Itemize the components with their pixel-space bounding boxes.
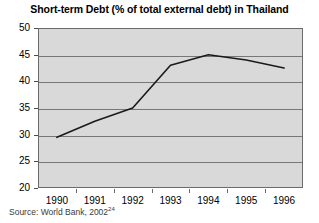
x-tick-mark-1 — [76, 189, 77, 193]
x-tick-label-1991: 1991 — [84, 195, 106, 206]
y-tick-label-30: 30 — [19, 130, 30, 140]
x-tick-label-1994: 1994 — [197, 195, 219, 206]
x-tick-mark-6 — [265, 189, 266, 193]
y-tick-label-35: 35 — [19, 103, 30, 113]
gridline-25 — [39, 162, 302, 163]
x-tick-mark-5 — [227, 189, 228, 193]
x-tick-mark-3 — [152, 189, 153, 193]
x-axis: 1990199119921993199419951996 — [38, 189, 303, 209]
gridline-35 — [39, 109, 302, 110]
gridlines — [39, 29, 302, 187]
y-tick-label-20: 20 — [19, 183, 30, 193]
y-tick-label-40: 40 — [19, 76, 30, 86]
gridline-40 — [39, 82, 302, 83]
y-axis: 20253035404550 — [0, 28, 38, 188]
y-tick-label-50: 50 — [19, 23, 30, 33]
x-tick-label-1992: 1992 — [122, 195, 144, 206]
chart-figure: Short-term Debt (% of total external deb… — [0, 0, 319, 223]
x-tick-label-1990: 1990 — [46, 195, 68, 206]
x-tick-label-1996: 1996 — [273, 195, 295, 206]
chart-title: Short-term Debt (% of total external deb… — [0, 3, 319, 16]
gridline-30 — [39, 136, 302, 137]
source-text: Source: World Bank, 2002 — [9, 207, 108, 217]
x-tick-label-1995: 1995 — [235, 195, 257, 206]
source-footnote-marker: 24 — [108, 206, 115, 212]
gridline-45 — [39, 56, 302, 57]
plot-area — [38, 28, 303, 188]
y-tick-label-25: 25 — [19, 156, 30, 166]
source-note: Source: World Bank, 200224 — [9, 207, 115, 218]
x-tick-mark-4 — [189, 189, 190, 193]
x-tick-mark-2 — [114, 189, 115, 193]
y-tick-label-45: 45 — [19, 50, 30, 60]
x-tick-label-1993: 1993 — [159, 195, 181, 206]
